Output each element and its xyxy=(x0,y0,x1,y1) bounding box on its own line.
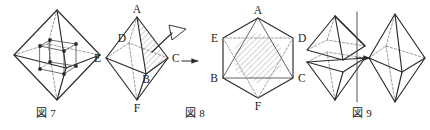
figure-8-right-group: A E D B C F 図 8 xyxy=(185,4,306,119)
fig8-label-A: A xyxy=(133,3,142,15)
fig8-hex-label-D: D xyxy=(298,32,306,44)
fig8-hex-label-E: E xyxy=(211,32,218,44)
fig8-hex-label-B: B xyxy=(210,72,218,84)
figure-8-caption: 図 8 xyxy=(185,107,205,119)
fig8-hex-label-C: C xyxy=(298,72,306,84)
fig8-hex-label-A: A xyxy=(254,4,263,16)
fig7-octahedron-hidden-edges xyxy=(14,10,100,100)
fig7-octahedron-outline xyxy=(14,10,100,100)
fig8-label-B: B xyxy=(142,73,150,85)
fig8-hex-label-F: F xyxy=(255,100,261,112)
figure-9-group: 図 9 xyxy=(307,12,425,119)
eye-icon xyxy=(169,25,186,40)
fig8-label-F: F xyxy=(134,102,140,114)
fig8-label-C: C xyxy=(172,52,180,64)
figure-7-caption: 図 7 xyxy=(36,107,56,119)
figure-sheet: 図 7 A F E C xyxy=(0,0,430,130)
fig7-inscribed-cube-hidden-edges xyxy=(40,40,50,69)
fig8-label-E: E xyxy=(94,52,101,64)
fig7-inscribed-cube-visible-edges xyxy=(40,40,76,74)
fig8-shaded-central-hexagon xyxy=(235,32,281,84)
geometry-figure-canvas: 図 7 A F E C xyxy=(0,0,430,130)
fig9-lower-pyramid xyxy=(307,52,365,100)
figure-9-caption: 図 9 xyxy=(352,107,372,119)
fig8-label-D: D xyxy=(118,32,126,44)
figure-7-group: 図 7 xyxy=(14,10,100,119)
figure-8-left-group: A F E C D B xyxy=(94,3,186,114)
fig9-result-octahedron xyxy=(369,14,425,102)
